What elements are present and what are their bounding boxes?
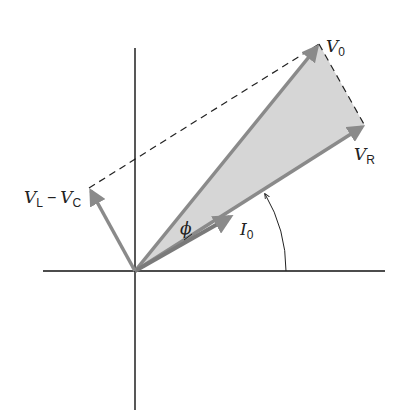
- label-vr: VR: [354, 144, 375, 167]
- vector-vl-minus-vc: [91, 191, 135, 271]
- phasor-diagram: V0 VR I0 VL−VC ϕ: [0, 0, 393, 420]
- label-vl-minus-vc: VL−VC: [24, 187, 82, 210]
- label-v0: V0: [326, 36, 345, 59]
- label-phi: ϕ: [180, 218, 192, 238]
- angle-arc-arrow: [265, 194, 286, 271]
- label-i0: I0: [239, 219, 254, 242]
